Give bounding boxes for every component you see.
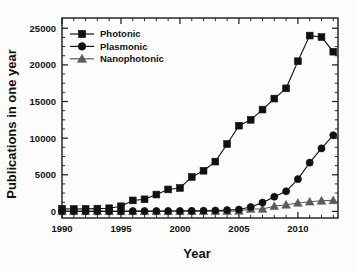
series-line-nanophotonic — [62, 200, 333, 211]
legend-label: Nanophotonic — [100, 53, 164, 64]
data-point-square — [94, 205, 101, 212]
data-point-circle — [318, 145, 325, 152]
data-point-square — [141, 196, 148, 203]
data-point-circle — [165, 207, 172, 214]
data-point-square — [129, 197, 136, 204]
data-point-circle — [129, 208, 136, 215]
y-axis-tick-labels: 0500010000150002000025000 — [30, 23, 56, 217]
data-point-circle — [224, 207, 231, 214]
legend-item-nanophotonic[interactable]: Nanophotonic — [70, 53, 164, 64]
data-point-square — [259, 106, 266, 113]
y-tick-label: 5000 — [35, 169, 56, 180]
x-tick-label: 2010 — [287, 223, 308, 234]
data-point-square — [318, 34, 325, 41]
data-point-square — [153, 191, 160, 198]
data-point-square — [82, 205, 89, 212]
legend-item-plasmonic[interactable]: Plasmonic — [70, 41, 148, 52]
x-tick-label: 2000 — [169, 223, 190, 234]
data-point-circle — [200, 207, 207, 214]
data-point-circle — [271, 193, 278, 200]
data-point-square — [236, 122, 243, 129]
data-point-circle — [294, 176, 301, 183]
x-axis-tick-labels: 19901995200020052010 — [51, 223, 308, 234]
data-point-circle — [306, 159, 313, 166]
data-point-square — [188, 174, 195, 181]
data-point-square — [306, 32, 313, 39]
chart-legend: PhotonicPlasmonicNanophotonic — [70, 28, 164, 64]
x-tick-label: 1995 — [110, 223, 132, 234]
data-point-square — [177, 185, 184, 192]
data-point-circle — [188, 207, 195, 214]
data-point-triangle — [329, 196, 338, 204]
x-tick-label: 1990 — [51, 223, 72, 234]
legend-marker-square-icon — [78, 30, 85, 37]
y-axis-title: Publications in one year — [4, 49, 19, 199]
chart-canvas: 19901995200020052010 0500010000150002000… — [0, 0, 356, 274]
legend-label: Plasmonic — [100, 41, 148, 52]
y-tick-label: 15000 — [30, 96, 56, 107]
data-point-circle — [153, 208, 160, 215]
data-point-square — [247, 116, 254, 123]
legend-marker-circle-icon — [78, 43, 86, 51]
data-point-square — [59, 205, 66, 212]
data-point-circle — [247, 203, 254, 210]
data-point-square — [283, 85, 290, 92]
publications-per-year-line-chart: 19901995200020052010 0500010000150002000… — [0, 0, 356, 274]
data-point-square — [294, 58, 301, 65]
data-point-circle — [141, 208, 148, 215]
data-point-square — [224, 141, 231, 148]
legend-label: Photonic — [100, 28, 141, 39]
x-axis-title: Year — [183, 246, 210, 261]
data-point-square — [118, 203, 125, 210]
data-point-circle — [283, 188, 290, 195]
data-point-square — [70, 206, 77, 213]
data-point-circle — [330, 132, 337, 139]
data-point-square — [271, 95, 278, 102]
y-tick-label: 25000 — [30, 23, 56, 34]
data-point-square — [330, 48, 337, 55]
x-tick-label: 2005 — [228, 223, 250, 234]
y-tick-label: 0 — [51, 206, 56, 217]
data-point-square — [200, 167, 207, 174]
data-point-circle — [212, 207, 219, 214]
data-point-square — [165, 186, 172, 193]
y-tick-label: 20000 — [30, 59, 56, 70]
data-point-circle — [259, 199, 266, 206]
data-point-square — [106, 205, 113, 212]
data-point-circle — [176, 207, 183, 214]
legend-item-photonic[interactable]: Photonic — [70, 28, 141, 39]
y-tick-label: 10000 — [30, 133, 56, 144]
data-point-square — [212, 158, 219, 165]
data-point-circle — [235, 206, 242, 213]
